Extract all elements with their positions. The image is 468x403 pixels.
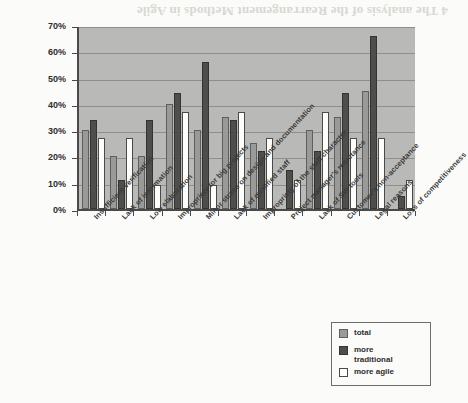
y-axis-tick-label: 30% — [28, 126, 66, 136]
legend-item: moretraditional — [339, 345, 393, 364]
legend-item-label: total — [354, 328, 371, 338]
bar-more-agile — [182, 112, 189, 209]
legend-item: more agile — [339, 367, 394, 377]
y-axis-tick-label: 40% — [28, 100, 66, 110]
x-axis-tick-mark — [77, 211, 78, 216]
x-axis-tick-mark — [218, 211, 219, 216]
y-axis-tick-label: 70% — [28, 21, 66, 31]
y-axis-tick-label: 60% — [28, 47, 66, 57]
y-axis-tick-mark — [72, 185, 77, 186]
y-axis-tick-mark — [72, 158, 77, 159]
y-axis-tick-mark — [72, 53, 77, 54]
x-axis-tick-mark — [162, 211, 163, 216]
total-swatch — [339, 329, 348, 338]
y-axis-tick-label: 50% — [28, 74, 66, 84]
bar-total — [82, 130, 89, 209]
chart-legend: totalmoretraditionalmore agile — [331, 322, 431, 386]
legend-item-label: more agile — [354, 367, 394, 377]
x-axis-tick-mark — [246, 211, 247, 216]
x-axis-tick-mark — [415, 211, 416, 216]
y-axis-tick-mark — [72, 80, 77, 81]
y-axis-tick-label: 10% — [28, 179, 66, 189]
bar-more-traditional — [90, 120, 97, 209]
y-axis-tick-mark — [72, 132, 77, 133]
y-axis-tick-label: 20% — [28, 152, 66, 162]
x-axis-tick-mark — [302, 211, 303, 216]
legend-item: total — [339, 328, 371, 338]
y-axis-tick-label: 0% — [28, 205, 66, 215]
x-axis-tick-mark — [274, 211, 275, 216]
y-axis-tick-mark — [72, 27, 77, 28]
x-axis-tick-mark — [331, 211, 332, 216]
bar-more-agile — [98, 138, 105, 209]
legend-item-label: moretraditional — [354, 345, 393, 364]
x-axis-tick-mark — [387, 211, 388, 216]
more-traditional-swatch — [339, 346, 348, 355]
more-agile-swatch — [339, 368, 348, 377]
x-axis-tick-mark — [359, 211, 360, 216]
y-axis-tick-mark — [72, 106, 77, 107]
x-axis-tick-mark — [190, 211, 191, 216]
x-axis-tick-mark — [105, 211, 106, 216]
x-axis-category-labels: Insufficient verificationLack of informa… — [0, 213, 454, 323]
bar-group — [79, 27, 107, 209]
x-axis-tick-mark — [133, 211, 134, 216]
